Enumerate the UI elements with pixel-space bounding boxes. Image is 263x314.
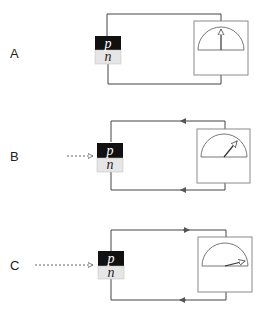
panel-label: C — [10, 258, 19, 273]
n-label: n — [107, 157, 114, 172]
panel-b: B p n — [10, 121, 250, 190]
panel-label: A — [10, 46, 19, 61]
meter-box — [197, 129, 250, 183]
p-label: p — [106, 143, 114, 158]
panel-c: C p n — [10, 230, 252, 300]
p-label: p — [107, 251, 115, 266]
meter-box — [198, 237, 252, 292]
n-label: n — [108, 265, 115, 280]
panel-label: B — [10, 149, 19, 164]
photodiode-diagram: A p n B p n C p — [0, 0, 263, 314]
panel-a: A p n — [10, 14, 248, 84]
n-label: n — [105, 49, 112, 64]
